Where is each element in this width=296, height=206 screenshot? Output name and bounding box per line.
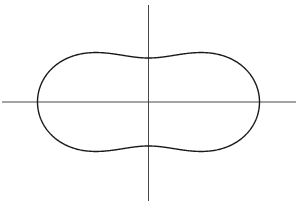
- plot-canvas: [0, 0, 296, 206]
- cassini-oval-figure: [0, 0, 296, 206]
